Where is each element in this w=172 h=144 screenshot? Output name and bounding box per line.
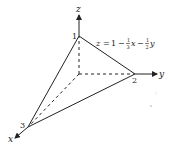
fraction-2-numerator: 1 bbox=[146, 37, 149, 43]
fraction-2-denominator: 2 bbox=[146, 44, 149, 50]
equation-minus-1: − bbox=[118, 39, 125, 48]
x-axis-label: x bbox=[8, 134, 13, 144]
equation-var-y: y bbox=[149, 39, 155, 48]
fraction-1-denominator: 3 bbox=[127, 44, 130, 50]
z-intercept-label: 1 bbox=[72, 32, 77, 41]
y-axis-label: y bbox=[158, 69, 165, 79]
equation-var-x: x bbox=[131, 39, 136, 48]
z-axis-label: z bbox=[75, 4, 81, 14]
scan-speck bbox=[155, 92, 156, 93]
scan-speck bbox=[150, 105, 151, 106]
equation-minus-2: − bbox=[137, 39, 144, 48]
x-intercept-label: 3 bbox=[20, 121, 25, 130]
equation-equals: = bbox=[103, 39, 110, 48]
equation-constant: 1 bbox=[111, 39, 116, 48]
equation-lhs: z bbox=[95, 39, 101, 48]
plane-diagram: z y x 1 2 3 z = 1 − 1 3 x − 1 2 y bbox=[0, 0, 172, 144]
edge-3-2 bbox=[28, 74, 135, 127]
plane-equation: z = 1 − 1 3 x − 1 2 y bbox=[95, 37, 155, 50]
x-axis-hidden bbox=[29, 74, 79, 126]
fraction-1-numerator: 1 bbox=[127, 37, 130, 43]
y-intercept-label: 2 bbox=[132, 76, 137, 85]
edge-1-3 bbox=[28, 36, 79, 127]
